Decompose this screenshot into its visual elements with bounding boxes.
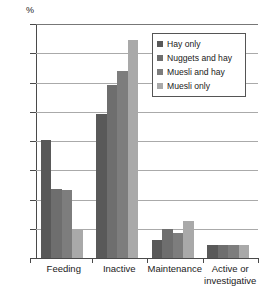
x-axis-label: Active orinvestigative [195, 263, 265, 287]
x-axis-label-line: Active or [212, 263, 249, 274]
bar [41, 140, 52, 258]
legend-item: Muesli and hay [157, 65, 241, 79]
bar [128, 40, 139, 258]
legend-item: Muesli only [157, 79, 241, 93]
legend-swatch-icon [157, 83, 163, 89]
bar-chart: % 01020304050607080 FeedingInactiveMaint… [0, 0, 264, 298]
x-axis-labels: FeedingInactiveMaintenanceActive orinves… [30, 263, 259, 297]
legend-swatch-icon [157, 55, 163, 61]
legend-item: Hay only [157, 37, 241, 51]
x-axis-label-line: investigative [204, 275, 256, 286]
legend-label: Muesli and hay [167, 67, 225, 77]
bar [72, 230, 83, 258]
legend: Hay onlyNuggets and hayMuesli and hayMue… [152, 33, 246, 97]
legend-label: Nuggets and hay [167, 53, 232, 63]
bar [62, 190, 73, 258]
legend-item: Nuggets and hay [157, 51, 241, 65]
bar [96, 114, 107, 258]
bar [117, 71, 128, 258]
legend-swatch-icon [157, 69, 163, 75]
bar [162, 229, 173, 258]
legend-label: Muesli only [167, 81, 210, 91]
x-axis-line [30, 258, 259, 259]
x-axis-label-line: Inactive [103, 263, 136, 274]
x-axis-label-line: Feeding [47, 263, 81, 274]
bar [218, 245, 229, 258]
bar [173, 233, 184, 258]
bar [228, 245, 239, 258]
legend-swatch-icon [157, 41, 163, 47]
y-axis-unit-label: % [26, 5, 34, 15]
legend-label: Hay only [167, 39, 200, 49]
bar [239, 245, 250, 258]
bar [51, 189, 62, 258]
bar [107, 85, 118, 258]
bar [152, 240, 163, 258]
bar [183, 221, 194, 258]
bar [207, 245, 218, 258]
